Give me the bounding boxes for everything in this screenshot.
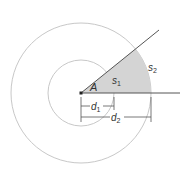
center-point [80, 92, 83, 95]
d1-label: d1 [91, 101, 101, 113]
d2-label: d2 [111, 112, 121, 124]
sector-diagram: A s1 s2 d1 d2 [0, 0, 188, 174]
angle-label: A [89, 81, 97, 93]
s2-label: s2 [148, 62, 157, 74]
